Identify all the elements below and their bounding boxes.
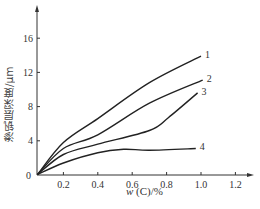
curve-label-2: 2 bbox=[207, 73, 212, 84]
axes bbox=[35, 5, 254, 177]
curve-label-4: 4 bbox=[200, 141, 205, 152]
y-tick-label: 8 bbox=[28, 101, 33, 112]
x-axis-label: w (C)/% bbox=[126, 185, 163, 197]
curves bbox=[38, 56, 203, 174]
x-tick-label: 1.0 bbox=[195, 179, 208, 190]
y-tick-label: 0 bbox=[26, 170, 31, 181]
x-axis-arrow-icon bbox=[247, 173, 254, 177]
x-axis-label-rest: (C)/% bbox=[133, 185, 163, 197]
curve-1 bbox=[38, 56, 202, 174]
curve-labels: 1234 bbox=[200, 49, 212, 152]
y-tick-label: 16 bbox=[23, 33, 33, 44]
curve-label-1: 1 bbox=[205, 49, 210, 60]
y-axis-label: 渗钒层深度/μm bbox=[2, 63, 16, 145]
chart-canvas: 0.20.40.60.81.01.20481216 1234 bbox=[0, 0, 260, 209]
curve-label-3: 3 bbox=[202, 86, 207, 97]
x-tick-label: 0.2 bbox=[57, 179, 70, 190]
y-tick-label: 12 bbox=[23, 67, 33, 78]
x-tick-label: 1.2 bbox=[229, 179, 242, 190]
y-axis-arrow-icon bbox=[35, 5, 39, 12]
y-tick-label: 4 bbox=[28, 135, 33, 146]
curve-2 bbox=[38, 80, 203, 174]
x-tick-label: 0.4 bbox=[92, 179, 105, 190]
curve-4 bbox=[38, 149, 196, 175]
